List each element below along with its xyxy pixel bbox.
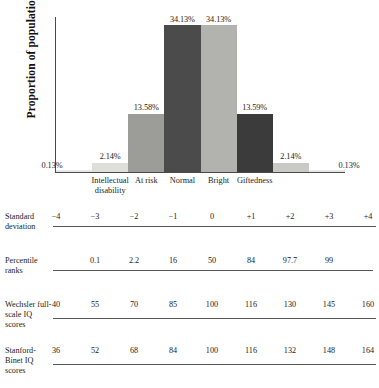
bar-1 — [92, 163, 128, 172]
bar-value-label-0: 0.13% — [34, 161, 70, 170]
bars-plot-area: 0.13%2.14%13.58%34.13%34.13%13.59%2.14%0… — [56, 17, 345, 172]
scale-value-standard-deviation-4: 0 — [198, 212, 226, 221]
category-label-4: Giftedness — [231, 176, 279, 186]
scale-row-values-wechsler-iq: 40557085100116130145160 — [53, 300, 379, 314]
scale-value-stanford-binet-iq-2: 68 — [120, 346, 148, 355]
scale-value-percentile-ranks-6: 97.7 — [276, 256, 304, 265]
bar-value-label-6: 2.14% — [273, 152, 309, 161]
scale-value-percentile-ranks-1: 0.1 — [81, 256, 109, 265]
scale-value-stanford-binet-iq-3: 84 — [159, 346, 187, 355]
bar-0 — [56, 170, 92, 172]
scale-value-wechsler-iq-1: 55 — [81, 300, 109, 309]
scale-row-rule-wechsler-iq — [53, 318, 376, 319]
scale-row-rule-percentile-ranks — [53, 270, 373, 271]
scale-value-wechsler-iq-8: 160 — [354, 300, 379, 309]
scale-row-values-standard-deviation: −4−3−2−10+1+2+3+4 — [53, 212, 379, 226]
bar-5 — [237, 114, 273, 173]
scale-value-standard-deviation-0: −4 — [42, 212, 70, 221]
category-label-1: At risk — [126, 176, 166, 186]
bar-4 — [201, 25, 237, 172]
y-axis-title: Proportion of population — [25, 0, 37, 131]
scale-value-standard-deviation-7: +3 — [315, 212, 343, 221]
bar-3 — [164, 25, 200, 172]
bar-value-label-1: 2.14% — [92, 152, 128, 161]
scale-value-stanford-binet-iq-0: 36 — [42, 346, 70, 355]
scale-value-wechsler-iq-0: 40 — [42, 300, 70, 309]
scale-value-percentile-ranks-3: 16 — [159, 256, 187, 265]
bar-2 — [128, 114, 164, 172]
scale-row-values-percentile-ranks: 0.12.216508497.799 — [53, 256, 379, 270]
bar-value-label-2: 13.58% — [128, 103, 164, 112]
scale-row-rule-stanford-binet-iq — [53, 364, 376, 365]
scale-value-wechsler-iq-6: 130 — [276, 300, 304, 309]
scale-value-percentile-ranks-5: 84 — [237, 256, 265, 265]
bar-value-label-3: 34.13% — [164, 15, 200, 24]
category-axis-labels: Intellectual disabilityAt riskNormalBrig… — [56, 176, 345, 200]
scale-value-percentile-ranks-4: 50 — [198, 256, 226, 265]
category-label-2: Normal — [162, 176, 202, 186]
bar-value-label-7: 0.13% — [331, 161, 367, 170]
scale-value-standard-deviation-5: +1 — [237, 212, 265, 221]
bar-6 — [273, 163, 309, 172]
scale-value-standard-deviation-3: −1 — [159, 212, 187, 221]
scale-row-values-stanford-binet-iq: 36526884100116132148164 — [53, 346, 379, 360]
scale-value-wechsler-iq-3: 85 — [159, 300, 187, 309]
iq-scale-rows: Standard deviation−4−3−2−10+1+2+3+4Perce… — [0, 204, 379, 388]
scale-value-wechsler-iq-7: 145 — [315, 300, 343, 309]
scale-row-rule-standard-deviation — [53, 226, 376, 227]
scale-value-standard-deviation-6: +2 — [276, 212, 304, 221]
iq-distribution-chart: Proportion of population 0.13%2.14%13.58… — [0, 0, 379, 200]
scale-value-stanford-binet-iq-6: 132 — [276, 346, 304, 355]
x-axis-line — [55, 172, 345, 173]
scale-value-stanford-binet-iq-4: 100 — [198, 346, 226, 355]
scale-value-percentile-ranks-2: 2.2 — [120, 256, 148, 265]
scale-value-standard-deviation-2: −2 — [120, 212, 148, 221]
scale-value-standard-deviation-8: +4 — [354, 212, 379, 221]
bar-7 — [309, 170, 345, 172]
scale-value-stanford-binet-iq-7: 148 — [315, 346, 343, 355]
scale-value-stanford-binet-iq-5: 116 — [237, 346, 265, 355]
scale-value-wechsler-iq-4: 100 — [198, 300, 226, 309]
scale-value-wechsler-iq-5: 116 — [237, 300, 265, 309]
scale-row-label-percentile-ranks: Percentile ranks — [5, 256, 53, 276]
bar-value-label-5: 13.59% — [237, 103, 273, 112]
scale-value-stanford-binet-iq-8: 164 — [354, 346, 379, 355]
scale-value-stanford-binet-iq-1: 52 — [81, 346, 109, 355]
scale-value-percentile-ranks-7: 99 — [315, 256, 343, 265]
scale-value-wechsler-iq-2: 70 — [120, 300, 148, 309]
scale-value-standard-deviation-1: −3 — [81, 212, 109, 221]
bar-value-label-4: 34.13% — [201, 15, 237, 24]
